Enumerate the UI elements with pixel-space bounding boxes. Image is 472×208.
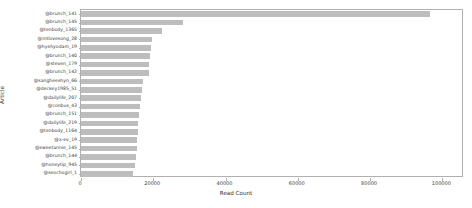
bar [81, 70, 149, 76]
y-tick-label: @dailylife_219 [43, 120, 77, 125]
y-tick-mark [79, 98, 82, 99]
y-tick-mark [79, 123, 82, 124]
y-tick-label: @conbus_43 [48, 103, 77, 108]
bar [81, 11, 430, 17]
x-tick-label: 20000 [144, 180, 160, 186]
bar [81, 95, 141, 101]
x-tick-label: 40000 [217, 180, 233, 186]
y-tick-label: @intlovesong_28 [38, 36, 77, 41]
y-tick-mark [79, 81, 82, 82]
bar [81, 137, 137, 143]
y-tick-label: @tenbody_1365 [40, 27, 77, 32]
y-tick-label: @seochogirl_1 [44, 170, 77, 175]
y-tick-mark [79, 65, 82, 66]
y-axis-title: Article [0, 86, 5, 104]
y-tick-label: @brunch_141 [45, 11, 77, 16]
bar [81, 171, 133, 177]
bar [81, 163, 135, 169]
y-tick-mark [79, 149, 82, 150]
bar [81, 104, 140, 110]
y-tick-mark [79, 107, 82, 108]
y-tick-label: @brunch_140 [45, 53, 77, 58]
y-tick-mark [79, 14, 82, 15]
y-tick-label: @x-ev_19 [54, 137, 77, 142]
y-tick-label: @deckey1985_51 [36, 86, 77, 91]
bar [81, 45, 151, 51]
y-tick-mark [79, 31, 82, 32]
bar [81, 62, 149, 68]
y-tick-mark [79, 165, 82, 166]
y-tick-label: @sangheeshyn_66 [34, 78, 77, 83]
bar [81, 79, 143, 85]
bar [81, 87, 142, 93]
x-axis-title: Read Count [0, 190, 472, 196]
bar [81, 37, 152, 43]
x-tick-label: 60000 [289, 180, 305, 186]
x-tick-label: 100000 [432, 180, 451, 186]
bar-chart: Article Read Count @brunch_141@brunch_14… [0, 0, 472, 208]
y-tick-mark [79, 90, 82, 91]
y-tick-mark [79, 115, 82, 116]
y-tick-mark [79, 174, 82, 175]
y-tick-mark [79, 132, 82, 133]
y-tick-label: @tenbody_1164 [40, 128, 77, 133]
y-tick-mark [79, 39, 82, 40]
bar [81, 20, 183, 26]
x-tick-label: 0 [78, 180, 81, 186]
bar [81, 28, 162, 34]
plot-area [80, 9, 463, 177]
bar [81, 121, 138, 127]
y-tick-label: @brunch_142 [45, 69, 77, 74]
y-tick-label: @brunch_151 [45, 111, 77, 116]
bar [81, 53, 150, 59]
y-tick-mark [79, 48, 82, 49]
y-tick-label: @steven_179 [46, 61, 77, 66]
y-tick-mark [79, 140, 82, 141]
y-tick-mark [79, 56, 82, 57]
y-tick-label: @brunch_145 [45, 19, 77, 24]
y-tick-mark [79, 73, 82, 74]
bar [81, 154, 136, 160]
bar [81, 129, 138, 135]
y-tick-label: @dailylife_207 [43, 95, 77, 100]
y-tick-mark [79, 23, 82, 24]
y-tick-mark [79, 157, 82, 158]
y-tick-label: @brunch_144 [45, 153, 77, 158]
bar [81, 112, 139, 118]
y-tick-label: @sweetannie_145 [35, 145, 77, 150]
y-tick-label: @honeytip_945 [41, 162, 77, 167]
bar [81, 146, 137, 152]
x-tick-label: 80000 [361, 180, 377, 186]
y-tick-label: @hyehyodam_19 [37, 44, 77, 49]
